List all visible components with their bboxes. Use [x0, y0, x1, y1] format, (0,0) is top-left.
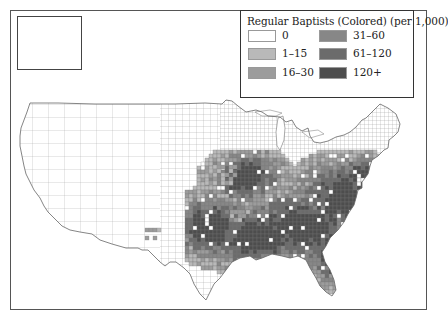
county-cell — [201, 254, 205, 258]
county-cell — [245, 226, 249, 230]
county-cell — [193, 242, 197, 246]
county-cell — [265, 246, 269, 250]
county-cell — [201, 194, 205, 198]
county-cell — [301, 242, 305, 246]
county-cell — [289, 186, 293, 190]
county-cell — [337, 246, 341, 250]
county-cell — [341, 266, 345, 270]
county-cell — [309, 238, 313, 242]
county-cell — [225, 210, 229, 214]
county-cell — [329, 246, 333, 250]
county-cell — [329, 182, 333, 186]
county-cell — [157, 228, 161, 232]
county-cell — [245, 174, 249, 178]
county-cell — [297, 274, 301, 278]
county-cell — [265, 186, 269, 190]
county-cell — [257, 178, 261, 182]
county-cell — [397, 190, 401, 194]
county-cell — [245, 222, 249, 226]
county-cell — [245, 242, 249, 246]
county-cell — [189, 226, 193, 230]
county-cell — [185, 222, 189, 226]
county-cell — [365, 210, 369, 214]
county-cell — [317, 162, 321, 166]
county-cell — [313, 238, 317, 242]
county-cell — [265, 202, 269, 206]
county-cell — [273, 274, 277, 278]
county-cell — [377, 178, 381, 182]
county-cell — [353, 266, 357, 270]
county-cell — [305, 198, 309, 202]
county-cell — [193, 250, 197, 254]
county-cell — [213, 266, 217, 270]
county-cell — [273, 238, 277, 242]
county-cell — [305, 210, 309, 214]
county-cell — [361, 218, 365, 222]
county-cell — [341, 214, 345, 218]
county-cell — [238, 214, 242, 218]
county-cell — [357, 154, 361, 158]
county-cell — [213, 165, 217, 169]
county-cell — [249, 270, 253, 274]
county-cell — [337, 158, 341, 162]
county-cell — [289, 210, 293, 214]
county-cell — [349, 198, 353, 202]
county-cell — [277, 202, 281, 206]
county-cell — [237, 154, 241, 158]
county-cell — [193, 254, 197, 258]
county-cell — [305, 162, 309, 166]
county-cell — [377, 234, 381, 238]
county-cell — [221, 246, 225, 250]
county-cell — [349, 254, 353, 258]
county-cell — [313, 182, 317, 186]
county-cell — [389, 214, 393, 218]
county-cell — [357, 174, 361, 178]
county-cell — [357, 206, 361, 210]
county-cell — [229, 254, 233, 258]
county-cell — [361, 226, 365, 230]
county-cell — [365, 182, 369, 186]
county-cell — [353, 226, 357, 230]
county-cell — [237, 270, 241, 274]
county-cell — [337, 162, 341, 166]
county-cell — [345, 150, 349, 154]
county-cell — [293, 222, 297, 226]
county-cell — [261, 226, 265, 230]
county-cell — [381, 154, 385, 158]
county-cell — [233, 246, 237, 250]
county-cell — [297, 226, 301, 230]
county-cell — [237, 194, 241, 198]
county-cell — [337, 166, 341, 170]
county-cell — [353, 278, 357, 282]
county-cell — [269, 190, 273, 194]
county-cell — [345, 186, 349, 190]
county-cell — [289, 202, 293, 206]
county-cell — [237, 222, 241, 226]
county-cell — [321, 166, 325, 170]
county-cell — [197, 194, 201, 198]
county-cell — [245, 262, 249, 266]
county-cell — [313, 214, 317, 218]
county-cell — [393, 186, 397, 190]
county-cell — [229, 222, 233, 226]
county-cell — [365, 186, 369, 190]
county-cell — [265, 214, 269, 218]
county-cell — [341, 194, 345, 198]
county-cell — [217, 270, 221, 274]
county-cell — [345, 234, 349, 238]
county-cell — [321, 226, 325, 230]
county-cell — [249, 218, 253, 222]
county-cell — [277, 182, 281, 186]
county-cell — [345, 230, 349, 234]
county-cell — [345, 222, 349, 226]
county-cell — [213, 190, 217, 194]
county-cell — [229, 198, 233, 202]
county-cell — [361, 230, 365, 234]
county-cell — [289, 274, 293, 278]
county-cell — [369, 242, 373, 246]
county-cell — [357, 170, 361, 174]
county-cell — [209, 250, 213, 254]
county-cell — [385, 166, 389, 170]
county-cell — [313, 166, 317, 170]
county-cell — [305, 226, 309, 230]
